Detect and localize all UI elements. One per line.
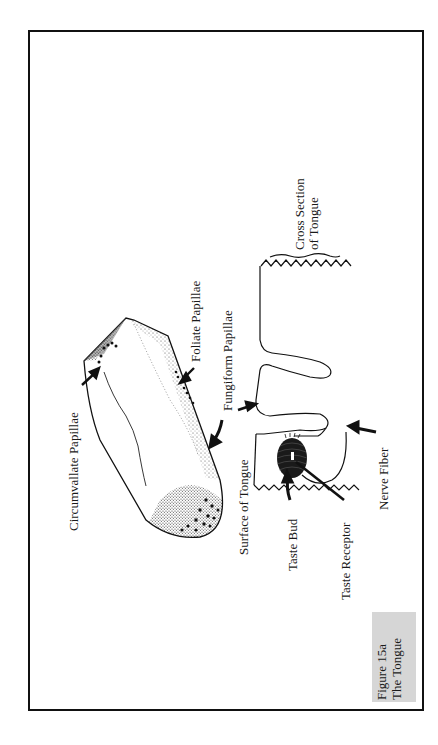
label-cross-section-line2: of Tongue xyxy=(307,197,321,250)
label-taste-receptor: Taste Receptor xyxy=(339,523,353,600)
label-cross-section-line1: Cross Section xyxy=(293,178,307,250)
arrow-taste-receptor xyxy=(296,462,344,500)
figure-caption-box: Figure 15a The Tongue xyxy=(372,612,416,702)
taste-bud-drawing xyxy=(277,433,307,478)
label-taste-bud: Taste Bud xyxy=(286,519,300,571)
label-surface-of-tongue: Surface of Tongue xyxy=(237,459,251,555)
caption-line-1: Figure 15a xyxy=(374,638,389,700)
label-fungiform-papillae: Fungiform Papillae xyxy=(221,310,235,411)
arrow-nerve-fiber xyxy=(349,422,376,432)
tongue-drawing xyxy=(82,318,230,540)
caption-line-2: The Tongue xyxy=(389,638,404,700)
arrow-fungiform xyxy=(210,420,222,447)
arrow-fungiform-cross xyxy=(238,402,256,410)
label-nerve-fiber: Nerve Fiber xyxy=(377,448,391,510)
figure-caption: Figure 15a The Tongue xyxy=(374,638,404,700)
label-circumvallate-papillae: Circumvallate Papillae xyxy=(67,412,81,531)
label-foliate-papillae: Foliate Papillae xyxy=(189,281,203,362)
